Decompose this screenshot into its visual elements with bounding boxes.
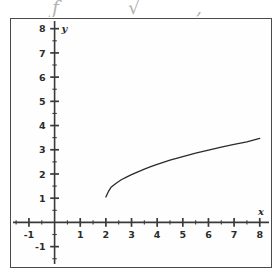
y-tick-label: 7 xyxy=(39,48,46,59)
y-tick-label: 8 xyxy=(39,23,46,34)
x-tick-label: 8 xyxy=(256,229,263,240)
top-glyph-2: , xyxy=(196,0,202,17)
curve-curve xyxy=(106,138,260,197)
x-tick-label: 5 xyxy=(179,229,186,240)
x-tick-label: 2 xyxy=(103,229,110,240)
top-text-fragment: ƒ√, xyxy=(0,0,280,17)
y-tick-label: 3 xyxy=(39,144,46,155)
y-tick-label: 5 xyxy=(39,96,46,107)
x-axis-label: x xyxy=(257,206,265,217)
y-tick-label: 2 xyxy=(39,169,46,180)
top-glyph-1: √ xyxy=(128,0,140,17)
x-tick-label: 6 xyxy=(205,229,212,240)
coordinate-plot: -112345678-112345678xy xyxy=(11,19,270,266)
y-axis-label: y xyxy=(61,23,69,34)
y-tick-label: -1 xyxy=(35,241,46,252)
x-tick-label: 3 xyxy=(128,229,135,240)
top-glyph-0: ƒ xyxy=(52,0,59,17)
y-tick-label: 1 xyxy=(39,193,46,204)
figure-frame: -112345678-112345678xy xyxy=(10,18,272,268)
x-tick-label: 7 xyxy=(231,229,238,240)
y-tick-label: 4 xyxy=(39,120,46,131)
x-tick-label: 4 xyxy=(154,229,161,240)
x-tick-label: -1 xyxy=(24,229,35,240)
y-tick-label: 6 xyxy=(39,72,46,83)
x-tick-label: 1 xyxy=(77,229,84,240)
